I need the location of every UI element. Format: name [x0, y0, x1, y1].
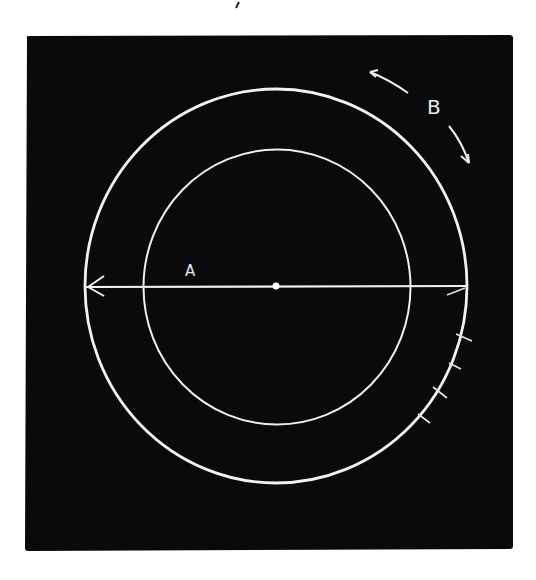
concentric-circles-diagram: A B — [0, 0, 536, 580]
label-b: B — [427, 95, 441, 119]
center-point — [273, 283, 280, 290]
label-a: A — [185, 262, 196, 280]
